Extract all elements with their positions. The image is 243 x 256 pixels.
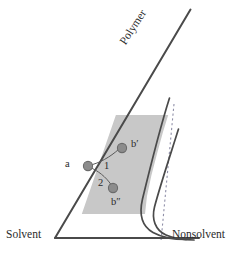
marker-point-b-double-prime[interactable] xyxy=(108,183,117,192)
corner-label-nonsolvent: Nonsolvent xyxy=(172,228,225,240)
point-label-b-double-prime: b″ xyxy=(111,196,121,207)
ternary-phase-diagram: Solvent Nonsolvent Polymer a b′ b″ 1 2 xyxy=(0,0,243,256)
point-label-b-prime: b′ xyxy=(131,138,139,149)
point-label-a: a xyxy=(65,158,70,169)
marker-point-b-prime[interactable] xyxy=(117,143,126,152)
corner-label-solvent: Solvent xyxy=(6,228,41,240)
spinodal-curve xyxy=(153,129,194,240)
path-label-2: 2 xyxy=(98,177,103,188)
marker-point-a[interactable] xyxy=(83,161,92,170)
path-label-1: 1 xyxy=(104,160,109,171)
